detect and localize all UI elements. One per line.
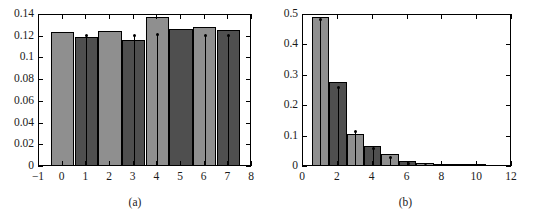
error-bar-cap — [337, 86, 340, 89]
x-axis-tick — [337, 161, 338, 166]
error-bar — [228, 35, 229, 165]
bar — [98, 31, 122, 165]
x-axis-tick-top — [476, 14, 477, 19]
y-axis-label: 0 — [292, 160, 298, 172]
x-axis-tick-top — [62, 14, 63, 19]
y-axis-tick-right — [506, 166, 511, 167]
x-axis-tick — [85, 161, 86, 166]
y-axis-tick-right — [246, 123, 251, 124]
error-bar — [355, 131, 356, 165]
x-axis-tick-top — [133, 14, 134, 19]
x-axis-tick-top — [302, 14, 303, 19]
y-axis-tick-right — [246, 79, 251, 80]
error-bar-cap — [389, 156, 392, 159]
x-axis-tick-top — [227, 14, 228, 19]
error-bar — [205, 35, 206, 165]
x-axis-tick — [407, 161, 408, 166]
plot-area-b — [302, 14, 511, 166]
bar — [169, 29, 193, 165]
x-axis-tick — [476, 161, 477, 166]
y-axis-tick — [38, 57, 43, 58]
y-axis-tick — [302, 166, 307, 167]
y-axis-tick — [38, 36, 43, 37]
x-axis-tick — [227, 161, 228, 166]
x-axis-tick-top — [407, 14, 408, 19]
x-axis-tick-top — [85, 14, 86, 19]
y-axis-label: 0.06 — [14, 95, 34, 107]
bar — [468, 164, 485, 165]
error-bar-cap — [85, 34, 88, 37]
y-axis-tick-right — [506, 136, 511, 137]
x-axis-tick — [62, 161, 63, 166]
y-axis-label: 0.1 — [20, 51, 34, 63]
y-axis-tick-right — [506, 105, 511, 106]
x-axis-tick-top — [180, 14, 181, 19]
x-axis-tick — [38, 161, 39, 166]
x-axis-tick-top — [372, 14, 373, 19]
x-axis-tick-top — [156, 14, 157, 19]
bar — [51, 32, 75, 165]
x-axis-tick-top — [511, 14, 512, 19]
x-axis-tick — [372, 161, 373, 166]
error-bar-cap — [319, 18, 322, 21]
chart-panel-a: 00.020.040.060.080.10.120.14−1012345678 … — [0, 0, 270, 220]
error-bar-cap — [424, 164, 427, 165]
error-bar — [157, 34, 158, 165]
y-axis-tick — [38, 166, 43, 167]
chart-panel-b: 00.10.20.30.40.5024681012 (b) — [270, 0, 541, 220]
error-bar-cap — [227, 34, 230, 37]
y-axis-tick-right — [246, 36, 251, 37]
x-axis-tick — [251, 161, 252, 166]
y-axis-tick — [302, 105, 307, 106]
error-bar — [338, 87, 339, 165]
x-axis-tick — [180, 161, 181, 166]
y-axis-tick — [302, 75, 307, 76]
y-axis-label: 0.4 — [284, 38, 298, 50]
x-axis-tick-top — [109, 14, 110, 19]
y-axis-tick — [38, 79, 43, 80]
y-axis-label: 0.12 — [14, 30, 34, 42]
error-bar-cap — [204, 34, 207, 37]
y-axis-tick — [302, 136, 307, 137]
panel-caption-b: (b) — [270, 196, 541, 208]
y-axis-label: 0.08 — [14, 73, 34, 85]
figure-container: 00.020.040.060.080.10.120.14−1012345678 … — [0, 0, 541, 220]
y-axis-tick-right — [246, 57, 251, 58]
y-axis-label: 0.14 — [14, 8, 34, 20]
error-bar-cap — [133, 34, 136, 37]
x-axis-tick-top — [441, 14, 442, 19]
y-axis-tick-right — [246, 144, 251, 145]
error-bar-cap — [156, 33, 159, 36]
y-axis-tick — [38, 144, 43, 145]
y-axis-tick-right — [506, 75, 511, 76]
y-axis-label: 0.02 — [14, 138, 34, 150]
y-axis-label: 0.3 — [284, 69, 298, 81]
bar — [434, 164, 451, 165]
x-axis-tick-top — [251, 14, 252, 19]
y-axis-label: 0.04 — [14, 117, 34, 129]
y-axis-label: 0.5 — [284, 8, 298, 20]
error-bar — [86, 35, 87, 165]
y-axis-tick-right — [506, 44, 511, 45]
x-axis-tick — [109, 161, 110, 166]
y-axis-label: 0.1 — [284, 130, 298, 142]
x-axis-label: 8 — [231, 171, 271, 183]
x-axis-tick-top — [337, 14, 338, 19]
x-axis-tick — [441, 161, 442, 166]
x-axis-tick — [156, 161, 157, 166]
x-axis-tick — [133, 161, 134, 166]
x-axis-tick-top — [38, 14, 39, 19]
x-axis-tick — [204, 161, 205, 166]
x-axis-label: 12 — [491, 171, 531, 183]
bars-layer-a — [39, 15, 250, 165]
y-axis-label: 0.2 — [284, 99, 298, 111]
panel-caption-a: (a) — [0, 196, 270, 208]
error-bar-cap — [354, 130, 357, 133]
error-bar — [373, 148, 374, 165]
error-bar-cap — [372, 147, 375, 150]
x-axis-tick — [511, 161, 512, 166]
y-axis-tick-right — [246, 166, 251, 167]
error-bar — [134, 35, 135, 165]
error-bar — [320, 19, 321, 165]
y-axis-tick — [38, 101, 43, 102]
